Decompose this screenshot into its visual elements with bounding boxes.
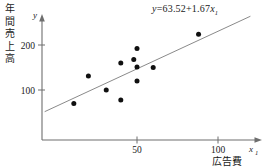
x-axis-variable-subscript: 1: [255, 149, 258, 156]
data-point: [104, 88, 109, 93]
regression-line: [45, 16, 251, 111]
y-tick-label-200: 200: [21, 41, 36, 51]
y-axis-title-char: 間: [3, 16, 17, 29]
x-axis-arrowhead: [255, 137, 263, 143]
y-axis-title-char: 売: [3, 28, 17, 41]
equation-slope: 1.67: [192, 3, 210, 14]
data-point: [118, 97, 123, 102]
x-axis-title: 広告費: [212, 153, 242, 168]
data-point: [131, 57, 136, 62]
y-axis-arrowhead: [39, 14, 45, 22]
data-point: [118, 61, 123, 66]
regression-equation-annotation: y=63.52+1.67x1: [152, 3, 218, 16]
y-axis-variable-label: y: [32, 10, 37, 20]
x-axis-variable-label: x 1: [248, 144, 258, 156]
y-axis-title: 年 間 売 上 高: [3, 3, 17, 66]
y-axis-title-char: 高: [3, 53, 17, 66]
data-point: [151, 65, 156, 70]
y-axis: [39, 14, 45, 140]
x-axis: [42, 137, 262, 143]
data-point: [71, 101, 76, 106]
y-axis-title-char: 上: [3, 41, 17, 54]
y-tick-label-100: 100: [21, 86, 36, 96]
data-point: [135, 65, 140, 70]
data-point-group: [71, 32, 201, 106]
equation-intercept: 63.52: [162, 3, 186, 14]
x-axis-variable-name: x: [248, 144, 253, 154]
x-tick-label-50: 50: [132, 145, 142, 155]
data-point: [196, 32, 201, 37]
y-axis-title-char: 年: [3, 3, 17, 16]
plot-canvas: 200 100 50 100 y x 1: [0, 0, 268, 168]
equation-subscript: 1: [215, 9, 218, 16]
scatter-plot-figure: 200 100 50 100 y x 1 y=63.52+1.67x1 年 間 …: [0, 0, 268, 168]
data-point: [135, 46, 140, 51]
data-point: [135, 79, 140, 84]
data-point: [86, 74, 91, 79]
